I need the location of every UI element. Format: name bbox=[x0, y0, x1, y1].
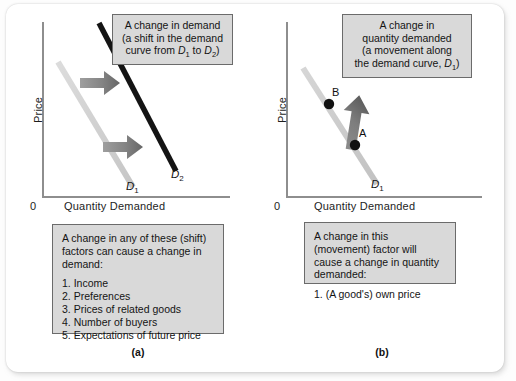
list-item: 4. Number of buyers bbox=[62, 316, 214, 329]
list-item: 2. Preferences bbox=[62, 290, 214, 303]
list-item: 1. Income bbox=[62, 277, 214, 290]
curve-label-d2-a: D2 bbox=[171, 168, 184, 183]
origin-label-b: 0 bbox=[274, 200, 280, 212]
curve-label-d1-b-sub: 1 bbox=[379, 184, 383, 193]
panel-a: Price 0 Quantity Demanded D1 D2 A change… bbox=[0, 0, 258, 381]
callout-b-line-3: (a movement along bbox=[349, 44, 465, 57]
x-axis-label-a: Quantity Demanded bbox=[64, 200, 165, 212]
x-axis-a bbox=[42, 196, 230, 198]
curve-label-d1-a-sub: 1 bbox=[134, 186, 138, 195]
point-B-dot bbox=[324, 99, 334, 109]
list-item: 5. Expectations of future price bbox=[62, 329, 214, 342]
origin-label-a: 0 bbox=[30, 200, 36, 212]
curve-label-d2-a-sub: 2 bbox=[179, 174, 183, 183]
shift-factors-intro: A change in any of these (shift) factors… bbox=[62, 232, 214, 270]
shift-factors-list: 1. Income 2. Preferences 3. Prices of re… bbox=[62, 277, 214, 341]
movement-factor-box: A change in this (movement) factor will … bbox=[304, 222, 456, 284]
curve-label-d1-b: D1 bbox=[371, 178, 384, 193]
movement-factor-intro: A change in this (movement) factor will … bbox=[314, 230, 446, 281]
list-item: 1. (A good's) own price bbox=[314, 288, 446, 301]
callout-b-line-4: the demand curve, D1) bbox=[349, 57, 465, 75]
callout-line-2: (a shift in the demand bbox=[119, 32, 226, 45]
y-axis-label-a: Price bbox=[32, 97, 44, 123]
x-axis-label-b: Quantity Demanded bbox=[314, 200, 415, 212]
callout-line-1: A change in demand bbox=[119, 19, 226, 32]
demand-curve-d1-b bbox=[303, 68, 377, 184]
callout-quantity-demanded: A change in quantity demanded (a movemen… bbox=[342, 14, 472, 78]
list-item: 3. Prices of related goods bbox=[62, 303, 214, 316]
point-A-dot bbox=[350, 140, 360, 150]
shift-factors-box: A change in any of these (shift) factors… bbox=[52, 224, 224, 334]
shift-arrow-upper bbox=[80, 71, 120, 95]
point-A-label: A bbox=[359, 127, 366, 139]
shift-arrow-lower bbox=[103, 135, 143, 159]
panel-b: Price 0 Quantity Demanded B A D1 A chang… bbox=[258, 0, 516, 381]
movement-factor-list: 1. (A good's) own price bbox=[314, 288, 446, 301]
panel-caption-b: (b) bbox=[362, 346, 402, 358]
curve-label-d1-a: D1 bbox=[126, 180, 139, 195]
callout-demand-shift: A change in demand (a shift in the deman… bbox=[112, 14, 233, 65]
y-axis-label-b: Price bbox=[276, 97, 288, 123]
point-B-label: B bbox=[332, 86, 339, 98]
panel-caption-a: (a) bbox=[118, 346, 158, 358]
callout-b-line-1: A change in bbox=[349, 19, 465, 32]
callout-line-3: curve from D1 to D2) bbox=[119, 44, 226, 62]
callout-b-line-2: quantity demanded bbox=[349, 32, 465, 45]
figure-container: Price 0 Quantity Demanded D1 D2 A change… bbox=[0, 0, 516, 381]
x-axis-b bbox=[286, 196, 482, 198]
